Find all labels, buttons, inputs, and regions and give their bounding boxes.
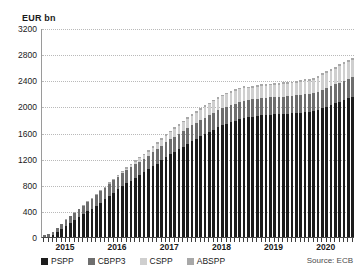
bar-segment-cspp — [286, 84, 289, 96]
bar-segment-cspp — [265, 86, 268, 98]
bar-segment-pspp — [291, 113, 294, 237]
bar-segment-pspp — [282, 114, 285, 237]
bar-segment-cbpp3 — [108, 184, 111, 196]
bar-segment-pspp — [286, 114, 289, 237]
bar-segment-cspp — [256, 87, 259, 99]
bar-segment-cbpp3 — [156, 149, 159, 163]
bar-segment-cbpp3 — [269, 97, 272, 114]
bar — [82, 205, 85, 237]
bar-segment-cbpp3 — [138, 162, 141, 175]
bar-segment-cbpp3 — [351, 77, 354, 96]
bar-segment-cspp — [208, 104, 211, 115]
bar-segment-pspp — [265, 115, 268, 237]
bar-segment-pspp — [334, 103, 337, 237]
bar-segment-cbpp3 — [104, 188, 107, 200]
bar-segment-pspp — [330, 105, 333, 237]
bar-segment-pspp — [165, 157, 168, 237]
bar-segment-cspp — [195, 113, 198, 123]
bar — [247, 87, 250, 237]
bar-segment-cbpp3 — [321, 90, 324, 108]
bar — [286, 82, 289, 237]
bar-segment-cspp — [238, 89, 241, 102]
bar-segment-pspp — [195, 139, 198, 237]
bar-segment-pspp — [338, 102, 341, 237]
bar-segment-pspp — [217, 127, 220, 237]
bar-segment-cbpp3 — [208, 115, 211, 132]
bar-segment-cspp — [343, 64, 346, 81]
bar-segment-cbpp3 — [173, 137, 176, 152]
bar-segment-cbpp3 — [251, 99, 254, 116]
bar — [104, 187, 107, 237]
bar-segment-cspp — [199, 110, 202, 120]
bar — [282, 82, 285, 237]
bar-segment-pspp — [60, 229, 63, 237]
bar — [347, 60, 350, 237]
bar-series-group — [42, 29, 354, 237]
bar-segment-cbpp3 — [286, 96, 289, 114]
bar-segment-pspp — [351, 97, 354, 237]
bar-segment-cbpp3 — [99, 191, 102, 202]
x-tick-label: 2016 — [108, 242, 127, 252]
bar-segment-cspp — [325, 73, 328, 88]
bar-segment-cbpp3 — [265, 98, 268, 115]
legend-item-pspp[interactable]: PSPP — [41, 256, 74, 266]
bar — [169, 130, 172, 237]
bar — [73, 212, 76, 237]
bar-segment-pspp — [182, 147, 185, 237]
bar — [304, 79, 307, 237]
bar-segment-cbpp3 — [217, 110, 220, 127]
y-tick-label: 2800 — [18, 50, 37, 60]
bar — [156, 142, 159, 237]
bar-segment-cspp — [247, 88, 250, 100]
bar-segment-cbpp3 — [243, 101, 246, 118]
bar-segment-pspp — [304, 112, 307, 237]
bar — [217, 97, 220, 237]
bar-segment-cbpp3 — [78, 209, 81, 217]
bar-segment-cbpp3 — [178, 134, 181, 149]
bar-segment-cbpp3 — [160, 146, 163, 161]
bar-segment-cspp — [334, 69, 337, 85]
bar-segment-cbpp3 — [278, 97, 281, 114]
bar — [312, 78, 315, 237]
bar-segment-pspp — [130, 181, 133, 237]
legend-item-cspp[interactable]: CSPP — [140, 256, 173, 266]
bar-segment-cbpp3 — [152, 152, 155, 166]
bar-segment-cbpp3 — [130, 167, 133, 181]
bar-segment-pspp — [343, 100, 346, 237]
bar-segment-pspp — [65, 226, 68, 237]
bar-segment-cspp — [338, 66, 341, 82]
y-tick-label: 800 — [23, 181, 37, 191]
bar-segment-cbpp3 — [121, 173, 124, 186]
bar-segment-cbpp3 — [282, 97, 285, 114]
bar-segment-cbpp3 — [147, 156, 150, 170]
bar-segment-pspp — [138, 175, 141, 237]
bar-segment-pspp — [147, 169, 150, 237]
bar-segment-pspp — [312, 111, 315, 237]
bar-segment-cbpp3 — [212, 113, 215, 130]
bar-segment-pspp — [221, 125, 224, 237]
legend-item-cbpp3[interactable]: CBPP3 — [88, 256, 126, 266]
x-tick-label: 2020 — [316, 242, 335, 252]
bar-segment-cbpp3 — [165, 142, 168, 157]
bar-segment-pspp — [251, 117, 254, 238]
bar — [152, 146, 155, 237]
bar — [278, 83, 281, 237]
x-tick-label: 2018 — [212, 242, 231, 252]
bar-segment-cbpp3 — [343, 81, 346, 100]
bar-segment-pspp — [273, 114, 276, 237]
bar — [78, 209, 81, 237]
bar-segment-cbpp3 — [221, 108, 224, 125]
bar-segment-pspp — [278, 114, 281, 237]
bar-segment-cspp — [212, 101, 215, 112]
bar-segment-cbpp3 — [82, 206, 85, 215]
bar-segment-cbpp3 — [191, 125, 194, 141]
bar-segment-pspp — [52, 235, 55, 237]
bar — [343, 62, 346, 237]
legend-swatch-icon — [187, 258, 194, 265]
bar-segment-cspp — [169, 132, 172, 139]
legend-item-abspp[interactable]: ABSPP — [187, 256, 225, 266]
legend-label: CSPP — [150, 256, 173, 266]
bar — [95, 194, 98, 237]
bar-segment-pspp — [73, 220, 76, 237]
y-tick-label: 400 — [23, 207, 37, 217]
